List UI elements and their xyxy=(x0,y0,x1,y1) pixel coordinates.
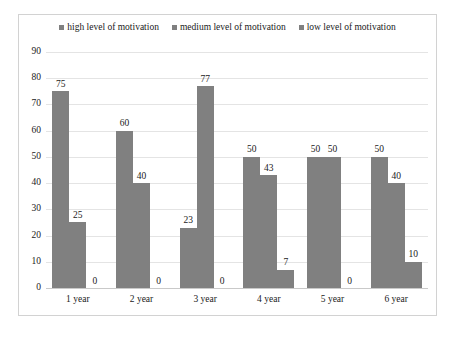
bar[interactable] xyxy=(388,183,405,288)
y-axis-tick-label: 60 xyxy=(32,126,42,136)
y-axis-tick-label: 40 xyxy=(32,178,42,188)
y-axis-tick-label: 10 xyxy=(32,257,42,267)
bar-group: 505005 year xyxy=(301,52,365,288)
legend-label: high level of motivation xyxy=(67,23,159,33)
bar[interactable] xyxy=(69,222,86,288)
bar[interactable] xyxy=(243,157,260,288)
bar-value-label: 7 xyxy=(283,258,288,268)
y-axis-tick-label: 30 xyxy=(32,205,42,215)
bar-group: 5040106 year xyxy=(364,52,428,288)
bar-value-label: 25 xyxy=(73,211,83,221)
legend-swatch-icon xyxy=(59,25,64,30)
plot-area: 0102030405060708090 752501 year604002 ye… xyxy=(46,52,428,288)
x-axis-tick-label: 3 year xyxy=(193,295,216,305)
bar[interactable] xyxy=(116,131,133,288)
x-axis-tick-label: 1 year xyxy=(66,295,89,305)
bar-slot: 7 xyxy=(277,52,294,288)
bar-slot: 0 xyxy=(214,52,231,288)
y-axis-tick-label: 50 xyxy=(32,152,42,162)
bar-value-label: 50 xyxy=(247,145,257,155)
legend-swatch-icon xyxy=(299,25,304,30)
y-axis-tick-label: 90 xyxy=(32,47,42,57)
bar-value-label: 50 xyxy=(374,145,384,155)
bar-slot: 43 xyxy=(260,52,277,288)
bar-group-bars: 75250 xyxy=(46,52,110,288)
bar-groups: 752501 year604002 year237703 year504374 … xyxy=(46,52,428,288)
bar[interactable] xyxy=(180,228,197,288)
bar-slot: 40 xyxy=(133,52,150,288)
bar-slot: 0 xyxy=(150,52,167,288)
bar-value-label: 77 xyxy=(200,75,210,85)
bar-group-bars: 50500 xyxy=(301,52,365,288)
bar-group-bars: 23770 xyxy=(173,52,237,288)
y-axis-tick-label: 20 xyxy=(32,231,42,241)
bar-value-label: 60 xyxy=(120,119,130,129)
bar-value-label: 0 xyxy=(92,277,97,287)
bar-slot: 23 xyxy=(180,52,197,288)
bar-value-label: 43 xyxy=(264,164,274,174)
bar-value-label: 10 xyxy=(408,250,418,260)
bar-value-label: 75 xyxy=(56,80,66,90)
bar-group-bars: 50437 xyxy=(237,52,301,288)
legend-entry[interactable]: low level of motivation xyxy=(299,23,396,33)
bar-slot: 50 xyxy=(243,52,260,288)
bar-value-label: 50 xyxy=(328,145,338,155)
chart-plot-box: high level of motivationmedium level of … xyxy=(18,14,437,316)
bar[interactable] xyxy=(133,183,150,288)
chart-legend: high level of motivationmedium level of … xyxy=(19,23,436,33)
legend-swatch-icon xyxy=(172,25,177,30)
legend-entry[interactable]: medium level of motivation xyxy=(172,23,286,33)
bar-slot: 75 xyxy=(52,52,69,288)
bar-group-bars: 60400 xyxy=(110,52,174,288)
bar[interactable] xyxy=(307,157,324,288)
bar-value-label: 40 xyxy=(137,172,147,182)
bar-value-label: 0 xyxy=(347,277,352,287)
bar-value-label: 50 xyxy=(311,145,321,155)
y-axis-tick-label: 80 xyxy=(32,73,42,83)
bar[interactable] xyxy=(324,157,341,288)
bar-slot: 50 xyxy=(371,52,388,288)
bar[interactable] xyxy=(371,157,388,288)
bar-group: 237703 year xyxy=(173,52,237,288)
bar-group-bars: 504010 xyxy=(364,52,428,288)
bar-group: 504374 year xyxy=(237,52,301,288)
bar[interactable] xyxy=(277,270,294,288)
legend-entry[interactable]: high level of motivation xyxy=(59,23,159,33)
bar-chart-figure: high level of motivationmedium level of … xyxy=(0,0,455,341)
bar-value-label: 0 xyxy=(156,277,161,287)
x-axis-tick-label: 4 year xyxy=(257,295,280,305)
bar-group: 752501 year xyxy=(46,52,110,288)
bar[interactable] xyxy=(260,175,277,288)
bar-slot: 77 xyxy=(197,52,214,288)
legend-label: low level of motivation xyxy=(307,23,396,33)
y-axis-tick-label: 70 xyxy=(32,100,42,110)
bar-slot: 50 xyxy=(307,52,324,288)
bar-slot: 60 xyxy=(116,52,133,288)
legend-label: medium level of motivation xyxy=(180,23,286,33)
bar[interactable] xyxy=(405,262,422,288)
bar[interactable] xyxy=(52,91,69,288)
bar-slot: 40 xyxy=(388,52,405,288)
bar-slot: 0 xyxy=(341,52,358,288)
bar-value-label: 0 xyxy=(220,277,225,287)
bar-slot: 50 xyxy=(324,52,341,288)
bar-group: 604002 year xyxy=(110,52,174,288)
x-axis-tick-label: 6 year xyxy=(384,295,407,305)
axis-baseline xyxy=(46,288,428,289)
bar[interactable] xyxy=(197,86,214,288)
x-axis-tick-label: 5 year xyxy=(321,295,344,305)
bar-slot: 25 xyxy=(69,52,86,288)
y-axis-tick-label: 0 xyxy=(36,283,41,293)
bar-slot: 0 xyxy=(86,52,103,288)
bar-value-label: 40 xyxy=(391,172,401,182)
x-axis-tick-label: 2 year xyxy=(130,295,153,305)
bar-slot: 10 xyxy=(405,52,422,288)
bar-value-label: 23 xyxy=(183,216,193,226)
